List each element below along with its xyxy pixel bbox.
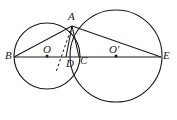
point-label-B: B [5,50,12,61]
point-label-C: C [80,55,87,66]
point-label-O: O [43,44,51,55]
point-label-D: D [66,58,74,69]
geometry-figure: B O D C O' E A [0,0,177,120]
point-label-O-prime: O' [109,44,119,55]
point-label-E: E [163,50,170,61]
point-label-A: A [68,11,75,22]
geometry-canvas [0,0,177,120]
